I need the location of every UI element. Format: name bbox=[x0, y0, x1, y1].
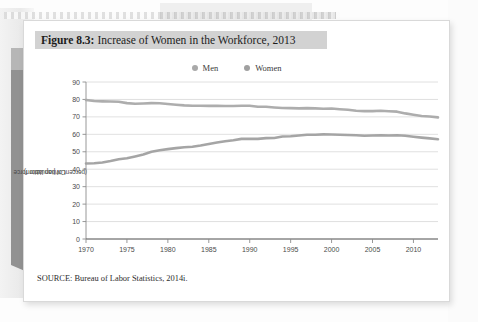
series-line-men bbox=[86, 100, 438, 117]
x-tick-1985: 1985 bbox=[201, 246, 217, 253]
source-note: SOURCE: Bureau of Labor Statistics, 2014… bbox=[37, 274, 188, 283]
x-axis-tick-labels: 197019751980198519901995200020052010 bbox=[78, 246, 421, 253]
page-right-margin bbox=[448, 0, 478, 322]
y-tick-10: 10 bbox=[72, 218, 80, 225]
spiral-binding-texture-dark bbox=[160, 12, 336, 19]
y-tick-50: 50 bbox=[72, 148, 80, 155]
data-series bbox=[86, 100, 438, 164]
y-tick-20: 20 bbox=[72, 201, 80, 208]
y-tick-30: 30 bbox=[72, 183, 80, 190]
y-tick-40: 40 bbox=[72, 166, 80, 173]
y-tick-70: 70 bbox=[72, 113, 80, 120]
x-tick-1990: 1990 bbox=[242, 246, 258, 253]
x-tick-2000: 2000 bbox=[324, 246, 340, 253]
y-tick-90: 90 bbox=[72, 79, 80, 86]
y-axis-tick-labels: 0102030405060708090 bbox=[72, 79, 80, 243]
line-chart: 0102030405060708090 19701975198019851990… bbox=[24, 21, 451, 303]
x-tick-2010: 2010 bbox=[406, 246, 422, 253]
x-tick-2005: 2005 bbox=[365, 246, 381, 253]
y-tick-60: 60 bbox=[72, 131, 80, 138]
figure-card: Figure 8.3: Increase of Women in the Wor… bbox=[23, 20, 450, 302]
x-tick-1970: 1970 bbox=[78, 246, 94, 253]
x-tick-1980: 1980 bbox=[160, 246, 176, 253]
x-tick-1975: 1975 bbox=[119, 246, 135, 253]
series-line-women bbox=[86, 134, 438, 163]
y-tick-80: 80 bbox=[72, 96, 80, 103]
x-tick-1995: 1995 bbox=[283, 246, 299, 253]
y-tick-0: 0 bbox=[76, 236, 80, 243]
